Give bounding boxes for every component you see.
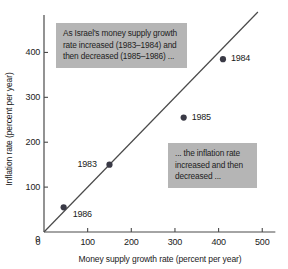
data-point — [181, 114, 187, 120]
data-point-label: 1986 — [73, 209, 92, 219]
data-point-label: 1985 — [192, 112, 211, 122]
x-tick-label: 200 — [124, 237, 138, 247]
data-point — [106, 162, 112, 168]
data-point — [220, 56, 226, 62]
data-point-label: 1983 — [77, 159, 96, 169]
y-tick-label: 400 — [26, 47, 40, 57]
callout-money-supply: As Israel's money supply growth rate inc… — [56, 23, 187, 68]
x-axis-title: Money supply growth rate (percent per ye… — [79, 254, 242, 264]
y-tick-label: 200 — [26, 137, 40, 147]
y-tick-label: 0 — [35, 234, 40, 244]
x-tick-label: 300 — [168, 237, 182, 247]
y-tick-label: 300 — [26, 92, 40, 102]
callout-inflation: ... the inflation rate increased and the… — [168, 143, 257, 188]
data-point-label: 1984 — [231, 53, 250, 63]
data-point — [61, 204, 67, 210]
x-tick-label: 100 — [80, 237, 94, 247]
x-tick-label: 500 — [255, 237, 269, 247]
x-tick-label: 400 — [211, 237, 225, 247]
y-tick-label: 100 — [26, 182, 40, 192]
y-axis-title: Inflation rate (percent per year) — [4, 72, 14, 185]
scatter-chart: 0100200300400500 0100200300400 198619831… — [0, 0, 288, 269]
